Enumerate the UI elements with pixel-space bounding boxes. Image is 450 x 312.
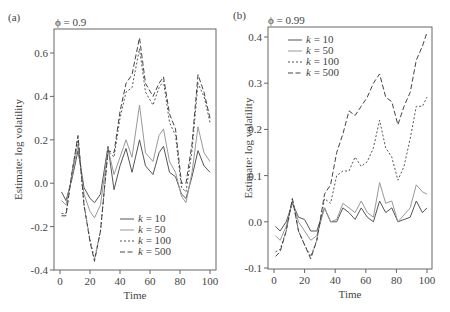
legend-entry: k = 500 <box>138 245 172 257</box>
x-tick-label: 100 <box>419 274 436 286</box>
x-tick-label: 0 <box>271 274 277 286</box>
y-tick-label: 0.3 <box>248 77 262 89</box>
y-tick-label: 0.0 <box>248 216 262 228</box>
x-tick-label: 100 <box>202 275 219 287</box>
x-axis-label: Time <box>339 288 362 300</box>
plot-frame <box>268 27 432 269</box>
x-tick-label: 60 <box>360 274 372 286</box>
y-tick-label: 0.2 <box>34 134 48 146</box>
panel-title: ϕ = 0.9 <box>55 16 87 28</box>
series-line <box>62 38 211 261</box>
panel-b: (b)ϕ = 0.99020406080100-0.10.00.10.20.30… <box>233 9 436 300</box>
y-tick-label: 0.4 <box>248 31 262 43</box>
y-tick-label: -0.2 <box>31 221 48 233</box>
y-tick-label: 0.6 <box>34 47 48 59</box>
x-tick-label: 60 <box>145 275 157 287</box>
series-line <box>276 97 428 256</box>
x-tick-label: 40 <box>330 274 342 286</box>
y-tick-label: 0.0 <box>34 177 48 189</box>
y-tick-label: 0.4 <box>34 90 48 102</box>
panel-label: (b) <box>233 9 246 22</box>
x-tick-label: 0 <box>57 275 63 287</box>
panel-label: (a) <box>8 11 21 24</box>
legend: k = 10k = 50k = 100k = 500 <box>120 212 172 257</box>
y-tick-label: -0.1 <box>245 262 262 274</box>
y-axis-label: Estimate: log volatility <box>242 97 254 198</box>
y-tick-label: -0.4 <box>31 264 49 276</box>
series-line <box>276 183 428 241</box>
panel-title: ϕ = 0.99 <box>268 14 305 26</box>
y-axis-label: Estimate: log volatility <box>12 99 24 200</box>
x-tick-label: 20 <box>299 274 311 286</box>
panel-a: (a)ϕ = 0.9020406080100-0.4-0.20.00.20.40… <box>8 11 219 301</box>
series-line <box>276 32 428 258</box>
x-tick-label: 80 <box>391 274 403 286</box>
x-tick-label: 80 <box>175 275 187 287</box>
legend: k = 10k = 50k = 100k = 500 <box>288 33 340 78</box>
series-line <box>276 201 428 231</box>
x-tick-label: 20 <box>85 275 97 287</box>
legend-entry: k = 500 <box>306 66 340 78</box>
x-tick-label: 40 <box>115 275 127 287</box>
x-axis-label: Time <box>124 289 147 301</box>
chart-figure: (a)ϕ = 0.9020406080100-0.4-0.20.00.20.40… <box>0 0 450 312</box>
